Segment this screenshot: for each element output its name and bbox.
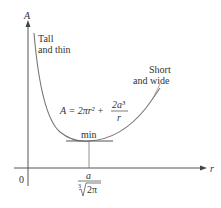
origin-label: 0	[19, 174, 24, 185]
x-axis-arrow-icon	[200, 166, 207, 171]
tick-radicand: 2π	[87, 184, 97, 195]
annotation-and-thin: and thin	[38, 44, 71, 55]
tick-root-index: 3	[78, 181, 81, 192]
x-axis-label: r	[210, 163, 214, 174]
annotation-and-wide: and wide	[133, 75, 169, 86]
annotation-tall: Tall	[38, 33, 53, 44]
y-axis-label: A	[24, 10, 30, 21]
chart-canvas	[0, 0, 221, 208]
min-label: min	[81, 129, 97, 140]
annotation-short: Short	[149, 64, 171, 75]
short-wide-pointer	[152, 84, 160, 100]
equation-denominator: r	[117, 112, 121, 123]
equation-numerator: 2a³	[112, 99, 125, 110]
equation-lhs: A = 2πr² +	[60, 105, 104, 116]
y-axis-arrow-icon	[26, 20, 31, 27]
tick-numerator: a	[86, 170, 91, 181]
